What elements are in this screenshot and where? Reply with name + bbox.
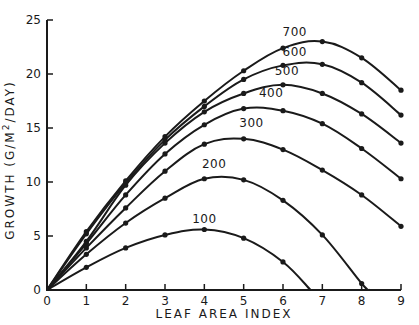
- data-point: [162, 232, 167, 237]
- series-group: 100200300400500600700: [47, 25, 404, 290]
- series-label-100: 100: [192, 212, 216, 226]
- y-ticks: 0510152025: [26, 13, 53, 297]
- data-point: [280, 198, 285, 203]
- data-point: [241, 77, 246, 82]
- data-point: [280, 82, 285, 87]
- x-tick-label: 2: [122, 294, 130, 308]
- y-tick-label: 20: [26, 67, 41, 81]
- series-line-100: [47, 229, 311, 290]
- data-point: [359, 192, 364, 197]
- y-tick-label: 25: [26, 13, 41, 27]
- data-point: [84, 229, 89, 234]
- data-point: [84, 252, 89, 257]
- series-100: 100: [47, 212, 311, 290]
- x-axis-title: LEAF AREA INDEX: [156, 307, 293, 321]
- y-axis-title-tail: /DAY): [3, 80, 17, 122]
- x-tick-label: 1: [83, 294, 91, 308]
- data-point: [320, 62, 325, 67]
- series-label-200: 200: [202, 157, 226, 171]
- x-tick-label: 9: [397, 294, 405, 308]
- data-point: [359, 281, 364, 286]
- data-point: [202, 109, 207, 114]
- data-point: [398, 88, 403, 93]
- data-point: [359, 111, 364, 116]
- data-point: [241, 91, 246, 96]
- data-point: [162, 134, 167, 139]
- data-point: [398, 176, 403, 181]
- x-tick-label: 7: [319, 294, 327, 308]
- data-point: [123, 220, 128, 225]
- data-point: [359, 80, 364, 85]
- data-point: [320, 91, 325, 96]
- x-tick-label: 8: [358, 294, 366, 308]
- axis-lines: [47, 20, 401, 290]
- series-line-400: [47, 107, 401, 290]
- data-point: [280, 45, 285, 50]
- data-point: [162, 196, 167, 201]
- y-axis-title-sup: 2: [1, 123, 11, 131]
- series-label-300: 300: [239, 116, 263, 130]
- data-point: [123, 245, 128, 250]
- data-point: [241, 236, 246, 241]
- data-point: [162, 151, 167, 156]
- data-point: [123, 192, 128, 197]
- data-point: [280, 259, 285, 264]
- y-axis-title: GROWTH (G/M2/DAY): [1, 80, 17, 240]
- data-point: [202, 142, 207, 147]
- y-tick-label: 0: [33, 283, 41, 297]
- data-point: [280, 147, 285, 152]
- x-tick-label: 5: [240, 294, 248, 308]
- y-tick-label: 15: [26, 121, 41, 135]
- data-point: [123, 205, 128, 210]
- data-point: [241, 106, 246, 111]
- data-point: [123, 178, 128, 183]
- data-point: [202, 122, 207, 127]
- growth-chart: 0123456789 0510152025 LEAF AREA INDEX GR…: [0, 0, 419, 325]
- data-point: [320, 168, 325, 173]
- data-point: [280, 63, 285, 68]
- data-point: [84, 265, 89, 270]
- series-label-700: 700: [283, 25, 307, 39]
- data-point: [398, 112, 403, 117]
- y-axis-title-main: GROWTH (G/M: [3, 130, 17, 240]
- y-tick-label: 10: [26, 175, 41, 189]
- data-point: [320, 121, 325, 126]
- x-tick-label: 0: [43, 294, 51, 308]
- x-tick-label: 4: [201, 294, 209, 308]
- data-point: [162, 169, 167, 174]
- data-point: [320, 232, 325, 237]
- data-point: [241, 177, 246, 182]
- data-point: [398, 141, 403, 146]
- data-point: [84, 239, 89, 244]
- data-point: [202, 104, 207, 109]
- x-ticks: 0123456789: [43, 284, 405, 308]
- data-point: [241, 68, 246, 73]
- data-point: [398, 224, 403, 229]
- data-point: [202, 98, 207, 103]
- data-point: [280, 108, 285, 113]
- y-tick-label: 5: [33, 229, 41, 243]
- data-point: [241, 136, 246, 141]
- x-tick-label: 3: [161, 294, 169, 308]
- x-tick-label: 6: [279, 294, 287, 308]
- data-point: [320, 39, 325, 44]
- series-300: 300: [47, 116, 404, 290]
- data-point: [202, 176, 207, 181]
- data-point: [359, 146, 364, 151]
- data-point: [202, 227, 207, 232]
- data-point: [359, 55, 364, 60]
